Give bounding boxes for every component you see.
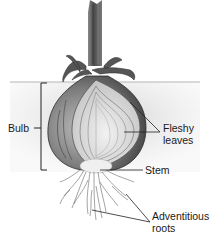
label-adventitious-roots-line1: Adventitious	[152, 210, 209, 222]
adventitious-roots	[60, 170, 134, 220]
label-bulb: Bulb	[8, 122, 29, 134]
label-fleshy-leaves-line1: Fleshy	[163, 122, 194, 134]
aerial-shoot	[88, 0, 102, 66]
label-adventitious-roots-line2: roots	[152, 222, 175, 234]
onion-bulb-diagram	[0, 0, 210, 241]
label-fleshy-leaves-line2: leaves	[163, 134, 193, 146]
label-stem: Stem	[145, 164, 170, 176]
